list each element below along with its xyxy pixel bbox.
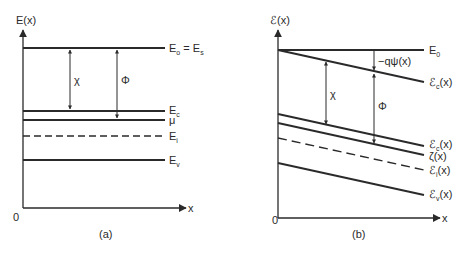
panel-a-label-ev: Ev — [169, 154, 180, 168]
panel-a-phi-label: Φ — [121, 74, 130, 86]
panel-a-y-axis-label: E(x) — [16, 14, 36, 26]
panel-b-label-upper: ℰc(x) — [429, 76, 452, 90]
panel-b-chi-label: χ — [330, 88, 336, 100]
panel-b-conduction-band — [278, 114, 424, 146]
panel-a: E(x) x 0 Eo = Es Ec μ Ei Ev χ Φ (a) — [13, 14, 204, 240]
panel-b-label-e0: E0 — [429, 44, 440, 58]
panel-b-label-ei: ℰi(x) — [429, 164, 450, 178]
panel-a-caption: (a) — [99, 228, 112, 240]
panel-a-origin-label: 0 — [13, 211, 19, 223]
panel-a-label-mu: μ — [169, 114, 175, 126]
panel-b-valence-band — [278, 163, 424, 195]
panel-a-label-eo: Eo = Es — [169, 42, 204, 56]
panel-b-x-axis-label: x — [442, 212, 448, 224]
panel-b-label-zeta: ζ(x) — [429, 150, 447, 162]
panel-b-y-axis-label: ℰ(x) — [270, 14, 290, 26]
band-diagram: E(x) x 0 Eo = Es Ec μ Ei Ev χ Φ (a) — [0, 0, 466, 254]
panel-a-x-axis-label: x — [188, 202, 194, 214]
panel-b-fermi-level — [278, 123, 424, 155]
panel-b-label-ev: ℰv(x) — [429, 188, 452, 202]
panel-b-origin-label: 0 — [272, 214, 278, 226]
panel-b-phi-label: Φ — [378, 100, 387, 112]
panel-b-caption: (b) — [352, 228, 365, 240]
panel-b: ℰ(x) x 0 E0 ℰc(x) ℰc(x) ζ(x) ℰi(x) ℰv(x) — [270, 14, 452, 240]
panel-b-intrinsic-level — [278, 138, 424, 170]
panel-a-chi-label: χ — [74, 74, 80, 86]
panel-a-label-ei: Ei — [169, 130, 178, 144]
panel-b-potential-label: −qψ(x) — [378, 55, 411, 67]
